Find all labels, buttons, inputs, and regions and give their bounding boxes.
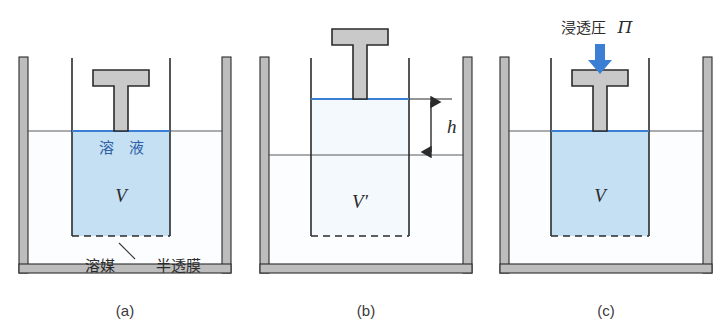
panel-a-solution-label: 溶 液 — [99, 139, 144, 157]
panel-b-solution-fill — [311, 99, 409, 236]
panel-a-piston — [93, 70, 149, 131]
panel-a-caption: (a) — [116, 302, 134, 319]
osmotic-pressure-figure: 溶 液 V 溶媒 半透膜 (a) h V′ — [0, 0, 725, 335]
panel-b-caption: (b) — [357, 302, 375, 319]
panel-c-osmotic-pressure-symbol: Π — [617, 17, 634, 37]
panel-c-osmotic-pressure-label: 浸透圧 — [561, 19, 606, 37]
panel-b-height-label: h — [447, 116, 457, 137]
panel-b-piston — [332, 29, 388, 99]
panel-c-piston — [572, 70, 628, 131]
panel-b-volume-label: V′ — [352, 191, 369, 212]
panel-a: 溶 液 V 溶媒 半透膜 (a) — [19, 57, 231, 319]
panel-a-membrane-label: 半透膜 — [156, 257, 201, 275]
panel-c-caption: (c) — [597, 302, 615, 319]
panel-c: 浸透圧 Π V (c) — [500, 17, 712, 319]
panel-b: h V′ (b) — [260, 29, 472, 319]
panel-a-solvent-label: 溶媒 — [85, 257, 115, 275]
panel-c-solution-fill — [551, 131, 649, 236]
panel-b-height-dimension — [409, 99, 452, 152]
